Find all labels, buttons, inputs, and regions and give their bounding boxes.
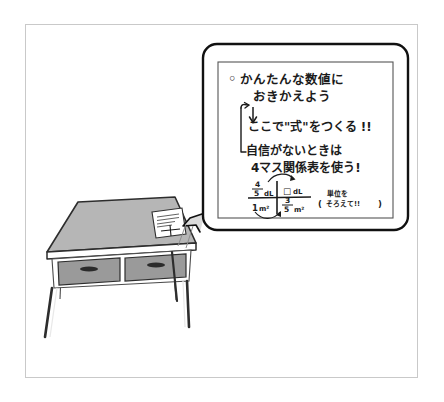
worksheet-paper [152,208,186,238]
illustration-canvas: ◦ かんたんな数値に おきかえよう ここで"式"をつくる !! 自信がないときは… [0,0,444,402]
illustration-artwork: ◦ かんたんな数値に おきかえよう ここで"式"をつくる !! 自信がないときは… [0,0,444,402]
cell-top-left-numerator: 4 [255,180,260,189]
note-open-paren: ( [318,199,322,209]
note-line-2: そろえて!! [326,199,360,208]
note-close-paren: ) [378,199,382,209]
callout-line-3: ここで"式"をつくる !! [248,119,372,134]
cell-top-left-unit: dL [264,190,274,198]
callout-line-5: 4マス関係表を使う! [251,160,361,175]
cell-top-left-denominator: 5 [254,189,259,198]
cell-top-right-unit: dL [293,188,303,196]
cell-top-right: □ dL [283,186,303,196]
drawer-right [125,254,186,281]
cell-bottom-right-denominator: 5 [284,205,289,214]
callout-line-1: かんたんな数値に [240,72,344,87]
callout-line-2: おきかえよう [253,89,331,104]
drawer-left-handle [80,267,98,272]
cell-top-right-box-glyph: □ [283,186,291,196]
callout-line-4: 自信がないときは [246,143,342,158]
cell-bottom-right-unit: m² [294,206,304,214]
cell-bottom-left: 1 m² [252,203,269,213]
cell-bottom-right-numerator: 3 [285,196,290,205]
cell-bottom-left-unit: m² [259,205,269,213]
drawer-left [58,258,120,285]
cell-bottom-left-whole: 1 [252,203,258,213]
bullet-marker: ◦ [228,71,236,86]
note-line-1: 単位を [327,189,348,198]
drawer-right-handle [147,263,165,268]
